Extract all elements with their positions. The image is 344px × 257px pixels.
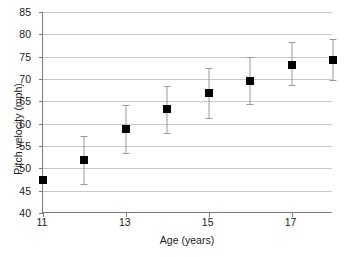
pitch-velocity-by-age-chart: Pitch velocity (mph) 4045505560657075808… xyxy=(0,0,344,257)
gridline xyxy=(43,168,332,169)
y-tick-label: 85 xyxy=(19,7,31,18)
y-tick-mark xyxy=(39,101,43,102)
gridline xyxy=(43,191,332,192)
data-point-marker xyxy=(246,77,254,85)
error-bar-cap xyxy=(247,104,254,105)
error-bar-cap xyxy=(288,42,295,43)
error-bar-cap xyxy=(81,136,88,137)
error-bar-cap xyxy=(205,68,212,69)
plot-area xyxy=(42,12,332,213)
y-tick-label: 70 xyxy=(19,74,31,85)
gridline xyxy=(43,146,332,147)
data-point-marker xyxy=(288,61,296,69)
x-tick-label: 17 xyxy=(285,217,297,228)
error-bar-cap xyxy=(288,85,295,86)
y-tick-label: 50 xyxy=(19,163,31,174)
error-bar-cap xyxy=(164,133,171,134)
error-bar-cap xyxy=(81,184,88,185)
y-tick-label: 45 xyxy=(19,185,31,196)
error-bar-cap xyxy=(247,57,254,58)
error-bar-cap xyxy=(330,80,337,81)
y-tick-label: 40 xyxy=(19,208,31,219)
error-bar-cap xyxy=(205,118,212,119)
gridline xyxy=(43,101,332,102)
data-point-marker xyxy=(39,176,47,184)
gridline xyxy=(43,57,332,58)
error-bar-cap xyxy=(122,105,129,106)
y-axis-tick-labels: 40455055606570758085 xyxy=(0,12,36,213)
y-tick-mark xyxy=(39,191,43,192)
data-point-marker xyxy=(205,89,213,97)
y-tick-mark xyxy=(39,12,43,13)
data-point-marker xyxy=(122,125,130,133)
data-point-marker xyxy=(329,56,337,64)
y-tick-label: 65 xyxy=(19,96,31,107)
gridline xyxy=(43,124,332,125)
y-tick-mark xyxy=(39,146,43,147)
error-bar-cap xyxy=(164,86,171,87)
x-tick-label: 13 xyxy=(119,217,131,228)
y-tick-mark xyxy=(39,34,43,35)
gridline xyxy=(43,79,332,80)
y-tick-label: 80 xyxy=(19,29,31,40)
y-tick-mark xyxy=(39,168,43,169)
data-point-marker xyxy=(80,156,88,164)
x-tick-label: 15 xyxy=(202,217,214,228)
error-bar-cap xyxy=(122,153,129,154)
gridline xyxy=(43,12,332,13)
x-tick-label: 11 xyxy=(37,217,48,228)
y-tick-label: 75 xyxy=(19,51,31,62)
x-axis-title: Age (years) xyxy=(42,234,332,246)
x-axis-tick-labels: 11131517 xyxy=(42,217,332,231)
y-tick-mark xyxy=(39,57,43,58)
gridline xyxy=(43,34,332,35)
y-tick-mark xyxy=(39,79,43,80)
error-bar-cap xyxy=(330,39,337,40)
y-tick-label: 55 xyxy=(19,141,31,152)
y-tick-label: 60 xyxy=(19,118,31,129)
data-point-marker xyxy=(163,105,171,113)
y-tick-mark xyxy=(39,124,43,125)
